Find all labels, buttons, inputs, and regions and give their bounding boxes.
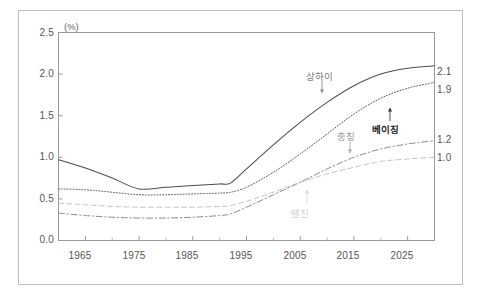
end-value-chongqing: 1.2 — [437, 134, 452, 145]
chart-figure: (%) 2.5 2.0 1.5 1.0 0.5 0.0 1965 1975 19… — [0, 0, 481, 302]
y-tick-label-2-5: 2.5 — [24, 27, 54, 38]
end-value-tianjin: 1.0 — [437, 152, 452, 163]
series-line-beijing — [59, 82, 435, 195]
end-value-beijing: 1.9 — [437, 84, 452, 95]
x-tick-label-1995: 1995 — [221, 250, 261, 261]
x-tick-label-1965: 1965 — [60, 250, 100, 261]
plot-frame — [59, 33, 435, 241]
y-tick-label-1-5: 1.5 — [24, 110, 54, 121]
series-label-beijing: 베이징 — [372, 122, 399, 136]
series-label-chongqing: 충칭 — [337, 129, 355, 143]
caption-strip — [18, 293, 463, 302]
annotation-arrow-chongqing — [348, 142, 352, 153]
annotation-arrow-beijing — [388, 108, 392, 121]
annotation-arrow-tianjin — [305, 190, 309, 203]
y-tick-label-0-5: 0.5 — [24, 193, 54, 204]
y-tick-label-0-0: 0.0 — [24, 234, 54, 245]
y-tick-label-2-0: 2.0 — [24, 68, 54, 79]
x-tick-label-2015: 2015 — [328, 250, 368, 261]
x-tick-label-2025: 2025 — [382, 250, 422, 261]
end-value-shanghai: 2.1 — [437, 66, 452, 77]
series-label-tianjin: 톈진 — [291, 206, 309, 220]
series-label-shanghai: 상하이 — [306, 69, 333, 83]
x-tick-label-2005: 2005 — [275, 250, 315, 261]
x-tick-label-1975: 1975 — [114, 250, 154, 261]
y-tick-label-1-0: 1.0 — [24, 151, 54, 162]
series-line-tianjin — [59, 157, 435, 207]
x-tick-label-1985: 1985 — [167, 250, 207, 261]
y-axis-unit-label: (%) — [64, 21, 79, 32]
